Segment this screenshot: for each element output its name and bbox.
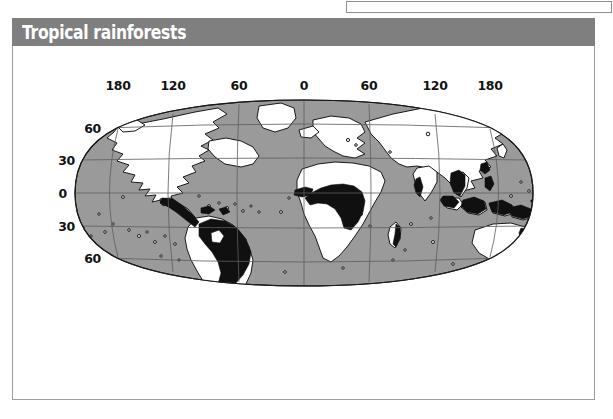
lat-label-30n: 30 <box>58 153 75 168</box>
lon-label-6: 180 <box>477 78 503 93</box>
rainforest-ne-australia <box>519 228 531 244</box>
page-title: Tropical rainforests <box>22 21 186 43</box>
lon-label-5: 120 <box>422 78 448 93</box>
content-panel: 180 120 60 0 60 120 180 60 30 0 30 60 <box>12 46 595 400</box>
lon-label-0: 180 <box>105 78 131 93</box>
lon-label-4: 60 <box>361 78 378 93</box>
lat-label-60s: 60 <box>84 251 101 266</box>
top-edge-strip <box>346 1 612 13</box>
lon-label-1: 120 <box>160 78 186 93</box>
map-svg: 180 120 60 0 60 120 180 60 30 0 30 60 <box>13 46 596 400</box>
lon-label-3: 0 <box>300 78 309 93</box>
lat-label-60n: 60 <box>84 121 101 136</box>
lon-label-2: 60 <box>231 78 248 93</box>
lat-label-30s: 30 <box>58 219 75 234</box>
longitude-axis: 180 120 60 0 60 120 180 <box>105 78 503 93</box>
lat-label-0: 0 <box>59 186 68 201</box>
world-map: 180 120 60 0 60 120 180 60 30 0 30 60 <box>13 46 596 400</box>
title-bar: Tropical rainforests <box>12 18 595 46</box>
